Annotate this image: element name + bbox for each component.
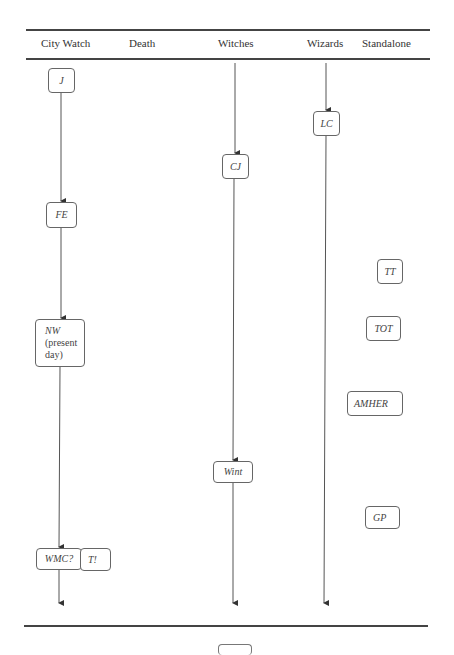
node-cj: CJ [222, 154, 249, 179]
node-label: J [59, 75, 63, 87]
node-label: TOT [374, 323, 392, 335]
node-sublabel: (present [45, 337, 77, 349]
node-sublabel: day) [45, 349, 63, 361]
partial-box-cutoff [218, 644, 252, 655]
edge-cj-wint [233, 179, 234, 460]
node-wint: Wint [213, 461, 253, 483]
node-label: T! [88, 554, 97, 566]
node-label: TT [384, 266, 395, 278]
edge-lc-continue [324, 136, 326, 603]
node-wmc: WMC? [36, 548, 82, 570]
node-tot: TOT [366, 316, 401, 341]
node-tt: TT [377, 259, 403, 284]
node-label: AMHER [354, 398, 388, 410]
node-label: FE [55, 209, 67, 221]
node-label: Wint [224, 466, 242, 478]
node-amher: AMHER [347, 391, 403, 416]
node-gp: GP [365, 506, 400, 529]
node-fe: FE [46, 202, 77, 228]
node-label: GP [373, 512, 386, 524]
node-t: T! [80, 548, 111, 571]
node-nw: NW (present day) [35, 319, 85, 367]
node-lc: LC [313, 111, 340, 136]
node-label: CJ [230, 161, 241, 173]
node-label: WMC? [45, 553, 73, 565]
node-j: J [48, 68, 75, 93]
node-label: LC [320, 118, 332, 130]
node-label: NW [45, 325, 60, 337]
edge-nw-wmc [59, 367, 60, 547]
